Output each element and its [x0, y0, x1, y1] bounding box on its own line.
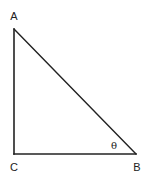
right-triangle-diagram: A C B θ — [0, 0, 145, 184]
angle-theta-label: θ — [111, 140, 117, 151]
vertex-label-a: A — [10, 10, 18, 22]
vertex-label-b: B — [133, 161, 140, 173]
vertex-label-c: C — [10, 161, 18, 173]
side-ab-hypotenuse — [14, 29, 136, 154]
